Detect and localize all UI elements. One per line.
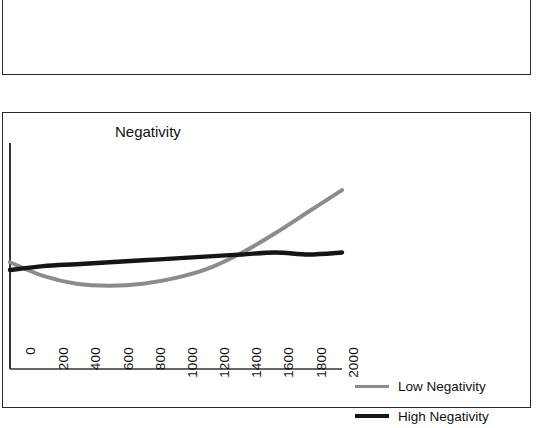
axis-tick-label: 1600 <box>281 0 296 22</box>
axis-tick-label: 1600 <box>281 347 296 407</box>
legend-item-low-negativity: Low Negativity <box>355 371 489 401</box>
axis-tick-label: 1800 <box>314 347 329 407</box>
chart-legend: Low Negativity High Negativity <box>355 371 489 428</box>
series-line-low-negativity <box>10 190 342 286</box>
lower-chart-panel: Negativity 02004006008001000120014001600… <box>2 112 531 408</box>
axis-tick-label: 1000 <box>185 347 200 407</box>
axis-tick-label: 400 <box>88 347 103 407</box>
axis-tick-label: 600 <box>121 0 136 22</box>
lower-axis-tick-labels: 0200400600800100012001400160018002000 <box>3 345 363 405</box>
axis-tick-label: 0 <box>23 0 38 22</box>
axis-tick-label: 1400 <box>249 0 264 22</box>
axis-tick-label: 1800 <box>314 0 329 22</box>
legend-label-high-negativity: High Negativity <box>398 409 489 424</box>
axis-tick-label: 1400 <box>249 347 264 407</box>
axis-tick-label: 800 <box>153 347 168 407</box>
upper-axis-tick-labels: 0200400600800100012001400160018002000 <box>3 0 363 20</box>
axis-tick-label: 0 <box>23 347 38 407</box>
axis-tick-label: 600 <box>121 347 136 407</box>
axis-tick-label: 1200 <box>217 347 232 407</box>
axis-tick-label: 1200 <box>217 0 232 22</box>
axis-tick-label: 200 <box>56 0 71 22</box>
axis-tick-label: 400 <box>88 0 103 22</box>
axis-tick-label: 1000 <box>185 0 200 22</box>
legend-line-swatch-high-icon <box>355 414 389 418</box>
axis-tick-label: 200 <box>56 347 71 407</box>
axis-tick-label: 2000 <box>346 0 361 22</box>
legend-line-swatch-low-icon <box>355 385 389 388</box>
axis-tick-label: 800 <box>153 0 168 22</box>
legend-label-low-negativity: Low Negativity <box>398 379 486 394</box>
upper-chart-panel: 0200400600800100012001400160018002000 <box>2 0 531 75</box>
series-line-high-negativity <box>10 253 342 271</box>
legend-item-high-negativity: High Negativity <box>355 401 489 428</box>
